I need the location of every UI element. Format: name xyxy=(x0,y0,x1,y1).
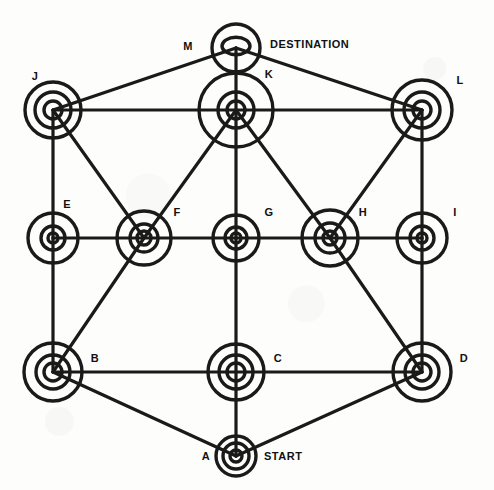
annotation-destination: DESTINATION xyxy=(270,38,349,50)
graph-svg: ASTARTBCDEFGHIJKLMDESTINATION xyxy=(0,0,494,490)
node-label-a: A xyxy=(202,450,210,462)
node-label-m: M xyxy=(183,40,193,52)
node-label-d: D xyxy=(460,352,468,364)
annotation-start: START xyxy=(264,450,302,462)
node-label-k: K xyxy=(265,68,273,80)
node-label-b: B xyxy=(91,352,99,364)
node-label-i: I xyxy=(453,206,456,218)
node-layer xyxy=(24,24,452,476)
diagram-canvas: ASTARTBCDEFGHIJKLMDESTINATION xyxy=(0,0,494,490)
node-label-g: G xyxy=(265,206,274,218)
node-label-f: F xyxy=(173,206,180,218)
node-label-l: L xyxy=(456,74,463,86)
label-layer: ASTARTBCDEFGHIJKLMDESTINATION xyxy=(32,38,468,462)
node-label-c: C xyxy=(274,352,282,364)
node-label-e: E xyxy=(63,198,71,210)
node-label-j: J xyxy=(32,70,39,82)
node-label-h: H xyxy=(359,206,367,218)
edge-layer xyxy=(53,48,422,456)
